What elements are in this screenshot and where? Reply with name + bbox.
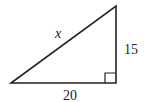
- hypotenuse-label: x: [54, 26, 62, 41]
- right-triangle: [11, 6, 116, 83]
- triangle-diagram: x 15 20: [0, 0, 144, 102]
- right-angle-marker: [105, 73, 116, 83]
- horizontal-leg-label: 20: [63, 88, 77, 102]
- vertical-leg-label: 15: [124, 42, 138, 57]
